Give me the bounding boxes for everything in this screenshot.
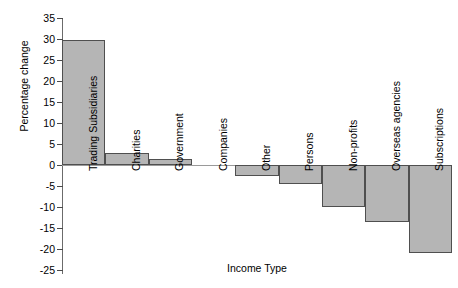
y-tick-label: -20 <box>21 244 55 255</box>
y-tick-label: -10 <box>21 202 55 213</box>
category-label: Non-profits <box>348 120 359 171</box>
bar <box>409 165 452 253</box>
bar-chart: Percentage change 35302520151050-5-10-15… <box>0 0 458 288</box>
y-tick-label: 15 <box>21 97 55 108</box>
y-tick-mark <box>57 249 63 250</box>
y-tick-label: -15 <box>21 223 55 234</box>
bar <box>149 159 192 165</box>
category-label: Persons <box>304 132 315 171</box>
category-label: Trading Subsidiaries <box>88 76 99 171</box>
y-tick-label: -5 <box>21 181 55 192</box>
category-label: Companies <box>218 118 229 171</box>
x-axis-title: Income Type <box>62 262 452 274</box>
y-tick-mark <box>57 186 63 187</box>
y-tick-mark <box>57 228 63 229</box>
bar <box>365 165 408 222</box>
category-label: Subscriptions <box>434 108 445 171</box>
bar <box>279 165 322 184</box>
plot-area: 35302520151050-5-10-15-20-25 Trading Sub… <box>62 14 452 274</box>
bar <box>105 153 148 165</box>
y-tick-label: 25 <box>21 55 55 66</box>
y-tick-label: 35 <box>21 13 55 24</box>
category-label: Charities <box>131 130 142 171</box>
category-label: Overseas agencies <box>391 81 402 171</box>
y-tick-label: 20 <box>21 76 55 87</box>
category-label: Other <box>261 145 272 171</box>
bar <box>235 165 278 176</box>
y-tick-label: 10 <box>21 118 55 129</box>
category-label: Government <box>174 113 185 171</box>
y-tick-label: 5 <box>21 139 55 150</box>
y-tick-mark <box>57 18 63 19</box>
y-tick-label: 0 <box>21 160 55 171</box>
y-tick-mark <box>57 207 63 208</box>
bar <box>322 165 365 207</box>
y-tick-label: -25 <box>21 265 55 276</box>
y-tick-label: 30 <box>21 34 55 45</box>
